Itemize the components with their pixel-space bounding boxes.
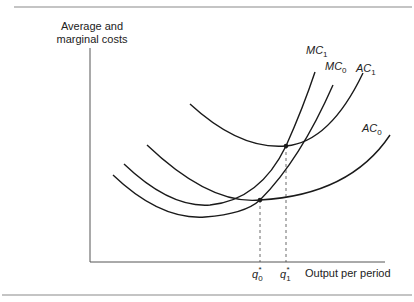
q1-sup: * — [287, 265, 290, 274]
q1-sub: 1 — [286, 274, 291, 283]
ac1-label-base: AC — [355, 62, 371, 74]
equilibrium-point-0 — [258, 198, 263, 203]
q0-star-label: q0* — [252, 265, 263, 283]
ac1-curve — [190, 73, 363, 146]
q1-star-label: q1* — [280, 265, 291, 283]
axes — [90, 48, 385, 262]
mc1-label-sub: 1 — [323, 50, 328, 59]
ac0-label: AC0 — [361, 122, 382, 137]
mc0-label: MC0 — [325, 60, 347, 75]
y-axis-label-line1: Average and — [61, 20, 123, 32]
ac0-label-base: AC — [361, 122, 377, 134]
x-axis-label: Output per period — [305, 267, 391, 279]
equilibrium-point-1 — [284, 144, 289, 149]
mc1-curve — [124, 72, 315, 205]
mc0-label-sub: 0 — [342, 66, 347, 75]
mc0-curve — [113, 85, 333, 217]
q0-sup: * — [259, 265, 262, 274]
mc0-label-base: MC — [325, 60, 342, 72]
ac1-label: AC1 — [355, 62, 376, 77]
y-axis-label-line2: marginal costs — [57, 33, 128, 45]
cost-curves-diagram: Average and marginal costs MC1 MC0 AC1 A… — [0, 0, 414, 302]
mc1-label-base: MC — [306, 44, 323, 56]
mc1-label: MC1 — [306, 44, 328, 59]
ac1-label-sub: 1 — [371, 68, 376, 77]
ac0-label-sub: 0 — [377, 128, 382, 137]
q0-sub: 0 — [258, 274, 263, 283]
